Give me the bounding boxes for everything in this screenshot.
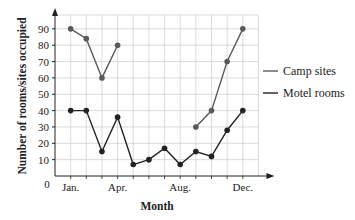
x-tick-label: Dec. bbox=[233, 181, 254, 193]
data-point bbox=[193, 124, 199, 130]
data-point bbox=[193, 149, 199, 155]
data-point bbox=[115, 42, 121, 48]
y-tick-label: 80 bbox=[38, 39, 50, 51]
y-tick-label: 50 bbox=[38, 88, 50, 100]
data-point bbox=[224, 127, 230, 133]
data-point bbox=[177, 162, 183, 168]
line-chart: 1020304050607080900Jan.Apr.Aug.Dec. Mont… bbox=[0, 0, 355, 220]
legend-item: Motel rooms bbox=[263, 86, 345, 100]
x-axis-title: Month bbox=[140, 200, 174, 212]
legend-item: Camp sites bbox=[263, 64, 336, 78]
series-line bbox=[71, 29, 118, 78]
data-point bbox=[209, 154, 215, 160]
y-axis-title: Number of rooms/sites occupied bbox=[16, 17, 29, 175]
data-point bbox=[209, 108, 215, 114]
y-tick-label: 30 bbox=[38, 121, 50, 133]
y-tick-label: 60 bbox=[38, 72, 50, 84]
series-line bbox=[71, 111, 243, 165]
y-tick-label: 10 bbox=[38, 154, 50, 166]
data-point bbox=[130, 162, 136, 168]
data-point bbox=[115, 114, 121, 120]
data-point bbox=[240, 108, 246, 114]
data-point bbox=[84, 108, 90, 114]
data-point bbox=[99, 75, 105, 81]
legend: Camp sitesMotel rooms bbox=[263, 64, 345, 100]
x-axis-arrow-icon bbox=[266, 173, 274, 179]
data-point bbox=[224, 59, 230, 65]
data-point bbox=[146, 157, 152, 163]
data-point bbox=[162, 145, 168, 151]
series-motel-rooms bbox=[68, 108, 246, 168]
data-point bbox=[68, 108, 74, 114]
y-tick-label: 20 bbox=[38, 137, 50, 149]
legend-label: Motel rooms bbox=[283, 86, 345, 100]
data-point bbox=[99, 149, 105, 155]
y-tick-label: 90 bbox=[38, 23, 50, 35]
y-tick-label: 70 bbox=[38, 56, 50, 68]
series-group bbox=[68, 26, 246, 167]
data-point bbox=[240, 26, 246, 32]
legend-label: Camp sites bbox=[283, 64, 336, 78]
origin-label: 0 bbox=[44, 178, 50, 190]
x-tick-label: Apr. bbox=[108, 181, 128, 193]
x-tick-label: Aug. bbox=[169, 181, 191, 193]
y-tick-label: 40 bbox=[38, 105, 50, 117]
data-point bbox=[68, 26, 74, 32]
data-point bbox=[84, 36, 90, 42]
x-tick-label: Jan. bbox=[62, 181, 80, 193]
y-axis-arrow-icon bbox=[52, 8, 58, 16]
